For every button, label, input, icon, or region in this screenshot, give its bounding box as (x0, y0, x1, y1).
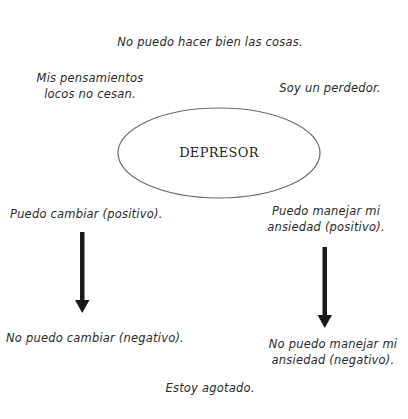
transition-right-from-line-1: Puedo manejar mi (262, 203, 390, 219)
thought-bottom: Estoy agotado. (150, 380, 270, 396)
transition-left-to: No puedo cambiar (negativo). (6, 330, 174, 346)
center-label: DEPRESOR (169, 145, 269, 160)
transition-right-to-line-2: ansiedad (negativo). (266, 352, 400, 368)
down-arrow-icon (75, 232, 90, 313)
transition-left-from: Puedo cambiar (positivo). (10, 206, 158, 222)
thought-top-left-line-2: locos no cesan. (30, 86, 150, 102)
down-arrow-icon (318, 247, 333, 328)
transition-right-to-line-1: No puedo manejar mi (266, 336, 400, 352)
thought-top: No puedo hacer bien las cosas. (110, 34, 310, 50)
thought-top-left-line-1: Mis pensamientos (30, 70, 150, 86)
transition-right-from-line-2: ansiedad (positivo). (262, 219, 390, 235)
diagram-canvas: DEPRESOR No puedo hacer bien las cosas. … (0, 0, 408, 419)
thought-top-right: Soy un perdedor. (268, 80, 392, 96)
